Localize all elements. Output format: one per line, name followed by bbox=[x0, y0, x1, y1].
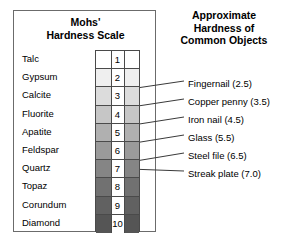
common-object-label: Streak plate (7.0) bbox=[188, 168, 261, 179]
common-object-label: Fingernail (2.5) bbox=[188, 78, 252, 89]
common-object-label: Steel file (6.5) bbox=[188, 150, 247, 161]
common-object-label: Copper penny (3.5) bbox=[188, 96, 270, 107]
common-object-label: Glass (5.5) bbox=[188, 132, 234, 143]
common-object-label-list: Fingernail (2.5)Copper penny (3.5)Iron n… bbox=[0, 0, 285, 242]
common-object-label: Iron nail (4.5) bbox=[188, 114, 244, 125]
mohs-hardness-figure: Mohs' Hardness Scale Approximate Hardnes… bbox=[0, 0, 285, 242]
